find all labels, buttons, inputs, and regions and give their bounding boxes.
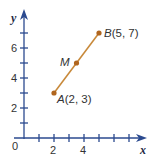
x-tick-label-2: 2 — [50, 144, 56, 156]
y-axis — [20, 16, 28, 139]
y-tick-label-2: 2 — [11, 102, 17, 114]
point-a-label: A(2, 3) — [56, 93, 92, 105]
x-axis-label: x — [139, 143, 146, 157]
x-tick-label-4: 4 — [80, 144, 86, 156]
y-tick-label-4: 4 — [11, 72, 17, 84]
point-m — [74, 60, 79, 65]
point-a — [51, 90, 56, 95]
point-b-label: B(5, 7) — [104, 27, 139, 39]
point-b — [96, 30, 101, 35]
y-axis-label: y — [9, 11, 17, 25]
point-m-label: M — [60, 56, 70, 68]
x-axis — [14, 134, 140, 142]
origin-label: 0 — [12, 140, 18, 152]
coordinate-plane: y x 6 4 2 0 2 4 A(2, 3) M B(5, 7) — [0, 0, 156, 162]
y-tick-label-6: 6 — [11, 42, 17, 54]
